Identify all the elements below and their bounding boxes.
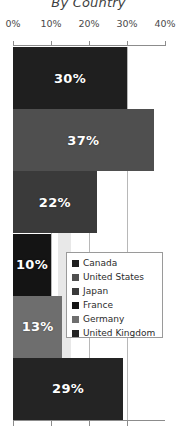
- bar-value-label: 10%: [16, 257, 48, 272]
- gridline: [127, 47, 128, 420]
- x-axis-tick-label: 0%: [5, 18, 20, 29]
- x-axis-tick-label: 10%: [40, 18, 61, 29]
- legend-item-label: United States: [83, 271, 144, 284]
- bar-value-label: 22%: [39, 195, 71, 210]
- bar-value-label: 37%: [67, 133, 99, 148]
- legend-swatch-icon: [72, 288, 79, 295]
- legend-item-label: Japan: [83, 285, 108, 298]
- legend-swatch-icon: [72, 260, 79, 267]
- x-axis-tick-mark: [13, 421, 14, 426]
- legend-swatch-icon: [72, 330, 79, 337]
- legend-item[interactable]: France: [72, 299, 158, 312]
- x-axis-tick-mark: [165, 41, 166, 46]
- bar: 10%: [13, 234, 51, 296]
- chart-title: By Country: [0, 0, 177, 10]
- bar: 13%: [13, 296, 62, 358]
- bar: 22%: [13, 171, 97, 233]
- x-axis-tick-mark: [127, 41, 128, 46]
- bar-value-label: 29%: [52, 381, 84, 396]
- legend-swatch-icon: [72, 316, 79, 323]
- bar-value-label: 30%: [54, 71, 86, 86]
- x-axis-tick-mark: [89, 41, 90, 46]
- legend-item[interactable]: United Kingdom: [72, 327, 158, 340]
- x-axis-tick-label: 40%: [154, 18, 175, 29]
- x-axis-tick-mark: [51, 41, 52, 46]
- x-axis-tick-mark: [127, 421, 128, 426]
- x-axis-tick-label: 20%: [78, 18, 99, 29]
- legend-swatch-icon: [72, 302, 79, 309]
- x-axis-tick-mark: [51, 421, 52, 426]
- bar: 30%: [13, 47, 127, 109]
- legend-swatch-icon: [72, 274, 79, 281]
- legend-item-label: France: [83, 299, 113, 312]
- x-axis-tick-label: 30%: [116, 18, 137, 29]
- bar-value-label: 13%: [22, 319, 54, 334]
- legend-item-label: United Kingdom: [83, 327, 155, 340]
- legend-item[interactable]: Canada: [72, 257, 158, 270]
- plot-area: 30%37%22%10%13%29%: [13, 47, 165, 420]
- legend-item[interactable]: Japan: [72, 285, 158, 298]
- legend: CanadaUnited StatesJapanFranceGermanyUni…: [66, 252, 163, 338]
- x-axis-tick-mark: [13, 41, 14, 46]
- legend-item-label: Germany: [83, 313, 124, 326]
- legend-item[interactable]: United States: [72, 271, 158, 284]
- legend-item-label: Canada: [83, 257, 117, 270]
- bar-chart: By Country 0%10%20%30%40% 30%37%22%10%13…: [0, 0, 177, 440]
- legend-item[interactable]: Germany: [72, 313, 158, 326]
- bar: 29%: [13, 358, 123, 420]
- bar: 37%: [13, 109, 154, 171]
- x-axis-tick-labels: 0%10%20%30%40%: [0, 18, 177, 32]
- x-axis-tick-mark: [89, 421, 90, 426]
